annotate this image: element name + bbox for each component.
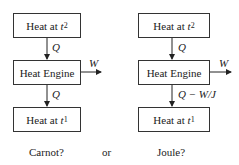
right-engine-box: Heat Engine xyxy=(138,60,210,85)
left-bottom-sub: 1 xyxy=(64,115,68,124)
right-bottom-text: Heat at xyxy=(153,114,184,126)
left-top-sub: 2 xyxy=(64,21,68,30)
right-top-sub: 2 xyxy=(191,21,195,30)
right-heat-in-label: Q xyxy=(178,41,186,53)
right-hot-reservoir-box: Heat at t2 xyxy=(138,13,210,38)
left-top-text: Heat at xyxy=(26,20,57,32)
middle-caption: or xyxy=(102,146,111,158)
left-bottom-text: Heat at xyxy=(26,114,57,126)
right-top-text: Heat at xyxy=(153,20,184,32)
right-work-label: W xyxy=(219,57,228,69)
left-heat-in-label: Q xyxy=(52,41,60,53)
left-work-label: W xyxy=(89,57,98,69)
left-cold-reservoir-box: Heat at t1 xyxy=(13,107,81,132)
left-engine-box: Heat Engine xyxy=(13,60,81,85)
right-caption: Joule? xyxy=(157,146,185,158)
right-cold-reservoir-box: Heat at t1 xyxy=(138,107,210,132)
left-caption: Carnot? xyxy=(29,146,64,158)
right-heat-out-label: Q − W/J xyxy=(178,88,216,100)
left-heat-out-label: Q xyxy=(52,88,60,100)
left-hot-reservoir-box: Heat at t2 xyxy=(13,13,81,38)
right-bottom-sub: 1 xyxy=(191,115,195,124)
